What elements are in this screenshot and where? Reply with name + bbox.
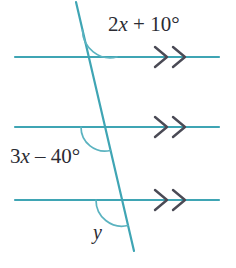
angle-label-top-variable: x: [119, 12, 128, 36]
angle-label-bottom: y: [93, 222, 102, 242]
angle-label-middle-variable: x: [21, 144, 30, 168]
angle-label-top: 2x + 10°: [108, 14, 180, 35]
geometry-canvas: [0, 0, 236, 268]
chevron-marks-group: [155, 47, 185, 210]
angle-label-top-operator: +: [133, 12, 145, 36]
angle-label-middle: 3x – 40°: [10, 146, 80, 167]
angle-label-middle-operator: –: [35, 144, 46, 168]
angle-label-top-coefficient: 2: [108, 12, 119, 36]
geometry-figure: 2x + 10° 3x – 40° y: [0, 0, 236, 268]
angle-label-top-constant: 10°: [150, 12, 179, 36]
angle-label-middle-constant: 40°: [51, 144, 80, 168]
angle-label-middle-coefficient: 3: [10, 144, 21, 168]
